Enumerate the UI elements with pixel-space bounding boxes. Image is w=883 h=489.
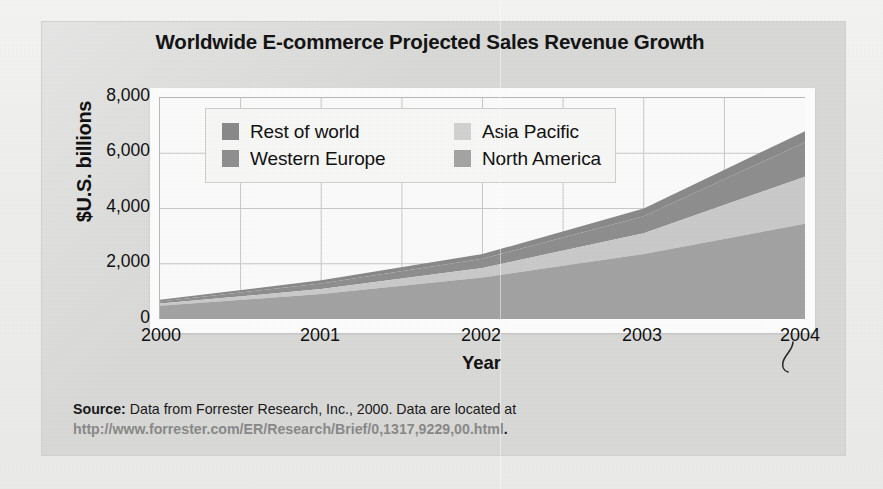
legend-item-asia-pacific[interactable]: Asia Pacific xyxy=(454,121,579,143)
y-tick-8000: 8,000 xyxy=(106,85,150,106)
legend-item-north-america[interactable]: North America xyxy=(454,148,601,170)
legend-label: North America xyxy=(482,148,601,170)
legend-item-rest-of-world[interactable]: Rest of world xyxy=(222,121,454,143)
x-axis-tick-labels: 2000 2001 2002 2003 2004 xyxy=(159,325,804,353)
x-axis-label: Year xyxy=(159,352,804,374)
legend-row: Rest of world Asia Pacific xyxy=(222,118,601,145)
x-tick-2001: 2001 xyxy=(300,325,340,346)
source-url[interactable]: http://www.forrester.com/ER/Research/Bri… xyxy=(73,421,504,437)
source-url-line: http://www.forrester.com/ER/Research/Bri… xyxy=(73,419,773,439)
y-axis-tick-labels: 8,000 6,000 4,000 2,000 0 xyxy=(78,86,150,326)
y-tick-4000: 4,000 xyxy=(106,196,150,217)
legend-label: Asia Pacific xyxy=(482,121,579,143)
x-tick-2004: 2004 xyxy=(780,325,820,346)
y-tick-2000: 2,000 xyxy=(106,251,150,272)
legend-row: Western Europe North America xyxy=(222,145,601,172)
x-tick-2000: 2000 xyxy=(141,325,181,346)
legend-swatch-icon xyxy=(454,150,471,167)
source-line: Source: Data from Forrester Research, In… xyxy=(73,399,773,419)
source-url-period: . xyxy=(504,421,508,437)
source-description: Data from Forrester Research, Inc., 2000… xyxy=(126,401,516,417)
legend-swatch-icon xyxy=(222,123,239,140)
figure-screenshot: Worldwide E-commerce Projected Sales Rev… xyxy=(0,0,883,489)
source-label: Source: xyxy=(73,401,126,417)
legend-swatch-icon xyxy=(454,123,471,140)
x-tick-2003: 2003 xyxy=(622,325,662,346)
legend-label: Rest of world xyxy=(250,121,360,143)
y-tick-6000: 6,000 xyxy=(106,140,150,161)
legend-label: Western Europe xyxy=(250,148,386,170)
source-block: Source: Data from Forrester Research, In… xyxy=(73,399,773,439)
legend-swatch-icon xyxy=(222,150,239,167)
legend: Rest of world Asia Pacific Western Europ… xyxy=(205,108,616,183)
x-tick-2002: 2002 xyxy=(461,325,501,346)
legend-item-western-europe[interactable]: Western Europe xyxy=(222,148,454,170)
chart-title: Worldwide E-commerce Projected Sales Rev… xyxy=(80,30,780,54)
